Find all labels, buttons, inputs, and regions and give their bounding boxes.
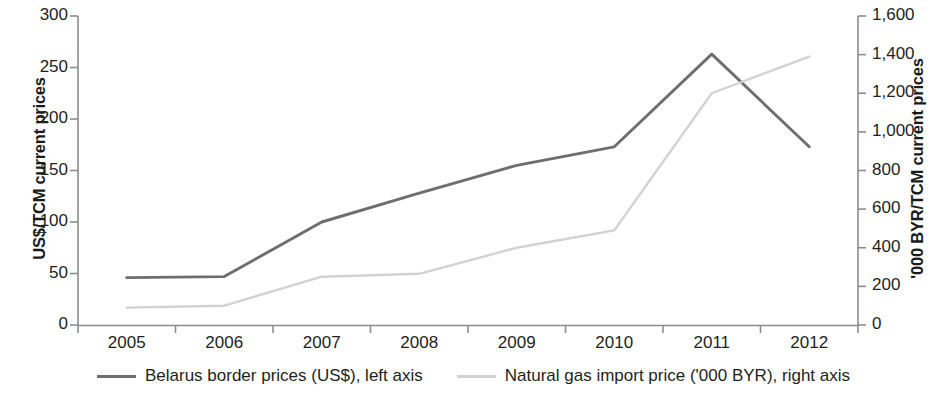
x-axis-tick-label: 2011 — [663, 333, 760, 353]
legend-item-belarus-border-prices: Belarus border prices (US$), left axis — [97, 366, 423, 386]
left-axis-tick-label: 300 — [16, 5, 68, 25]
axis-lines — [78, 16, 858, 326]
right-axis-tick-label: 1,200 — [872, 82, 932, 102]
right-axis-tick-label: 600 — [872, 198, 932, 218]
legend-label: Natural gas import price ('000 BYR), rig… — [505, 366, 850, 386]
legend-label: Belarus border prices (US$), left axis — [145, 366, 423, 386]
x-axis-tick-label: 2009 — [468, 333, 565, 353]
left-axis-tick-label: 0 — [16, 314, 68, 334]
chart-figure: US$/TCM current prices '000 BYR/TCM curr… — [0, 0, 947, 404]
series-line-0 — [127, 54, 810, 278]
right-axis-tick-label: 200 — [872, 275, 932, 295]
series-lines — [127, 54, 810, 308]
left-axis-tick-label: 100 — [16, 211, 68, 231]
x-axis-tick-label: 2006 — [176, 333, 273, 353]
left-axis-tick-label: 50 — [16, 263, 68, 283]
legend-swatch-line — [97, 375, 136, 378]
right-axis-tick-label: 1,000 — [872, 121, 932, 141]
x-axis-tick-label: 2012 — [761, 333, 858, 353]
series-line-1 — [127, 57, 810, 308]
right-axis-tick-label: 1,400 — [872, 44, 932, 64]
left-axis-ticks — [70, 16, 78, 325]
right-axis-tick-label: 400 — [872, 237, 932, 257]
left-axis-tick-label: 250 — [16, 57, 68, 77]
right-axis-tick-label: 1,600 — [872, 5, 932, 25]
x-axis-tick-label: 2005 — [78, 333, 175, 353]
chart-legend: Belarus border prices (US$), left axis N… — [0, 366, 947, 386]
legend-item-natural-gas-import-price: Natural gas import price ('000 BYR), rig… — [457, 366, 850, 386]
right-axis-ticks — [858, 16, 866, 325]
x-axis-tick-label: 2010 — [566, 333, 663, 353]
right-axis-tick-label: 800 — [872, 160, 932, 180]
x-axis-tick-label: 2008 — [371, 333, 468, 353]
legend-swatch-line — [457, 375, 496, 378]
left-axis-tick-label: 200 — [16, 108, 68, 128]
right-axis-tick-label: 0 — [872, 314, 932, 334]
left-axis-tick-label: 150 — [16, 160, 68, 180]
x-axis-tick-label: 2007 — [273, 333, 370, 353]
